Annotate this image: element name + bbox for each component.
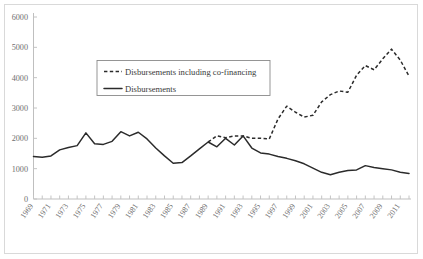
x-tick-label: 1993 [228, 202, 245, 220]
y-tick-label: 2000 [12, 134, 28, 143]
x-tick-label: 1999 [281, 202, 298, 220]
x-tick-label: 2003 [315, 202, 332, 220]
x-tick-label: 1983 [141, 202, 158, 220]
legend-label: Disbursements including co-financing [125, 67, 257, 77]
x-tick-label: 2007 [350, 202, 367, 220]
x-tick-label: 1987 [176, 202, 193, 220]
x-tick-label: 2005 [333, 202, 350, 220]
chart-figure: 0100020003000400050006000196919711973197… [0, 0, 423, 259]
y-tick-label: 5000 [12, 43, 28, 52]
x-tick-label: 1981 [123, 202, 140, 220]
series-line-solid [34, 132, 410, 175]
y-tick-label: 4000 [12, 74, 28, 83]
x-tick-label: 1971 [36, 202, 53, 220]
x-tick-label: 1977 [88, 202, 105, 220]
x-tick-label: 1997 [263, 202, 280, 220]
x-tick-label: 1973 [54, 202, 71, 220]
x-tick-label: 2009 [368, 202, 385, 220]
x-tick-label: 1995 [246, 202, 263, 220]
x-tick-label: 1979 [106, 202, 123, 220]
y-tick-label: 6000 [12, 13, 28, 22]
x-tick-label: 2001 [298, 202, 315, 220]
x-tick-label: 1969 [19, 202, 36, 220]
x-tick-label: 1989 [193, 202, 210, 220]
y-tick-label: 1000 [12, 165, 28, 174]
chart-legend: Disbursements including co-financingDisb… [97, 61, 270, 96]
y-tick-label: 3000 [12, 104, 28, 113]
x-tick-label: 1991 [211, 202, 228, 220]
line-chart: 0100020003000400050006000196919711973197… [0, 0, 423, 259]
x-tick-label: 1975 [71, 202, 88, 220]
x-tick-label: 2011 [386, 202, 402, 220]
legend-label: Disbursements [125, 84, 177, 94]
x-tick-label: 1985 [158, 202, 175, 220]
